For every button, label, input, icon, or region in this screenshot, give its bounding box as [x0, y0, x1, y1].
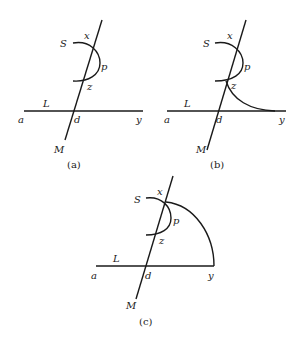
arc-xy	[166, 202, 214, 266]
label-p: p	[101, 61, 108, 72]
line-m	[136, 176, 173, 299]
arc-xpz	[146, 198, 171, 235]
label-s: S	[203, 38, 210, 49]
label-z: z	[86, 81, 93, 92]
caption-a: (a)	[67, 159, 81, 170]
panel-b: S x p z L a d y M (b)	[164, 20, 286, 170]
caption-b: (b)	[210, 159, 224, 170]
geometry-figure: S x p z L a d y M (a) S x p z L a d y M …	[0, 0, 298, 351]
label-d: d	[74, 114, 80, 125]
label-p: p	[173, 215, 180, 226]
label-s: S	[60, 38, 67, 49]
label-m: M	[53, 144, 65, 155]
label-x: x	[157, 186, 163, 197]
label-z: z	[230, 80, 237, 91]
label-y: y	[135, 114, 142, 125]
label-l: L	[112, 253, 120, 264]
label-m: M	[195, 144, 207, 155]
label-x: x	[227, 30, 233, 41]
label-d: d	[145, 270, 151, 281]
label-d: d	[216, 114, 222, 125]
arc-xpz	[73, 43, 100, 82]
label-m: M	[125, 300, 137, 311]
label-z: z	[158, 235, 165, 246]
label-a: a	[164, 114, 170, 125]
label-x: x	[84, 30, 90, 41]
label-l: L	[42, 98, 50, 109]
label-l: L	[183, 98, 191, 109]
caption-c: (c)	[139, 316, 153, 327]
label-a: a	[91, 270, 97, 281]
label-a: a	[18, 114, 24, 125]
panel-c: S x p z L a d y M (c)	[91, 176, 214, 327]
label-y: y	[278, 114, 285, 125]
label-y: y	[207, 270, 214, 281]
label-s: S	[134, 194, 141, 205]
label-p: p	[244, 61, 251, 72]
panel-a: S x p z L a d y M (a)	[18, 20, 143, 170]
